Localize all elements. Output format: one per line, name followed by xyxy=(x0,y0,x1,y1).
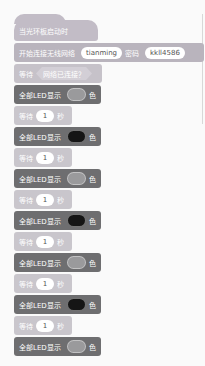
wait-until-block[interactable]: 等待 网络已连接？ xyxy=(14,64,102,83)
seconds-unit: 秒 xyxy=(57,111,64,121)
password-label: 密码 xyxy=(125,48,139,58)
all-led-color-block[interactable]: 全部LED显示色 xyxy=(14,211,101,230)
wifi-label: 开始连接无线网络 xyxy=(19,48,75,58)
seconds-input[interactable]: 1 xyxy=(36,110,54,122)
color-suffix: 色 xyxy=(89,132,96,142)
color-picker[interactable] xyxy=(67,256,86,269)
seconds-input[interactable]: 1 xyxy=(36,152,54,164)
seconds-unit: 秒 xyxy=(57,153,64,163)
network-connected-condition[interactable]: 网络已连接？ xyxy=(36,67,92,80)
led-label: 全部LED显示 xyxy=(19,300,61,310)
color-picker[interactable] xyxy=(67,88,86,101)
wait-label: 等待 xyxy=(19,153,33,163)
color-picker[interactable] xyxy=(67,172,86,185)
all-led-color-block[interactable]: 全部LED显示色 xyxy=(14,127,101,146)
wait-label: 等待 xyxy=(19,237,33,247)
wait-until-label: 等待 xyxy=(19,69,33,79)
color-picker[interactable] xyxy=(67,298,86,311)
wait-label: 等待 xyxy=(19,279,33,289)
color-suffix: 色 xyxy=(89,216,96,226)
when-halocode-starts-block[interactable]: 当光环板启动时 xyxy=(14,20,98,41)
seconds-unit: 秒 xyxy=(57,195,64,205)
hat-label: 当光环板启动时 xyxy=(19,26,68,36)
all-led-color-block[interactable]: 全部LED显示色 xyxy=(14,337,101,356)
wait-seconds-block[interactable]: 等待1秒 xyxy=(14,148,72,167)
seconds-unit: 秒 xyxy=(57,279,64,289)
wait-seconds-block[interactable]: 等待1秒 xyxy=(14,190,72,209)
seconds-input[interactable]: 1 xyxy=(36,194,54,206)
wait-seconds-block[interactable]: 等待1秒 xyxy=(14,106,72,125)
wait-seconds-block[interactable]: 等待1秒 xyxy=(14,274,72,293)
color-picker[interactable] xyxy=(67,130,86,143)
color-suffix: 色 xyxy=(89,300,96,310)
all-led-color-block[interactable]: 全部LED显示色 xyxy=(14,253,101,272)
color-suffix: 色 xyxy=(89,258,96,268)
all-led-color-block[interactable]: 全部LED显示色 xyxy=(14,169,101,188)
seconds-unit: 秒 xyxy=(57,321,64,331)
seconds-input[interactable]: 1 xyxy=(36,278,54,290)
wait-label: 等待 xyxy=(19,321,33,331)
color-picker[interactable] xyxy=(67,340,86,353)
color-suffix: 色 xyxy=(89,342,96,352)
led-label: 全部LED显示 xyxy=(19,132,61,142)
color-suffix: 色 xyxy=(89,174,96,184)
ssid-input[interactable]: tianming xyxy=(81,47,122,59)
seconds-unit: 秒 xyxy=(57,237,64,247)
color-suffix: 色 xyxy=(89,90,96,100)
led-label: 全部LED显示 xyxy=(19,90,61,100)
all-led-color-block[interactable]: 全部LED显示色 xyxy=(14,85,101,104)
connect-wifi-block[interactable]: 开始连接无线网络 tianming 密码 kkll4586 xyxy=(14,43,204,62)
led-label: 全部LED显示 xyxy=(19,216,61,226)
all-led-color-block[interactable]: 全部LED显示色 xyxy=(14,295,101,314)
wait-label: 等待 xyxy=(19,195,33,205)
seconds-input[interactable]: 1 xyxy=(36,236,54,248)
wait-seconds-block[interactable]: 等待1秒 xyxy=(14,232,72,251)
password-input[interactable]: kkll4586 xyxy=(145,47,185,59)
led-label: 全部LED显示 xyxy=(19,174,61,184)
code-block-stack[interactable]: 当光环板启动时 开始连接无线网络 tianming 密码 kkll4586 等待… xyxy=(14,14,204,358)
color-picker[interactable] xyxy=(67,214,86,227)
led-label: 全部LED显示 xyxy=(19,342,61,352)
led-label: 全部LED显示 xyxy=(19,258,61,268)
seconds-input[interactable]: 1 xyxy=(36,320,54,332)
wait-seconds-block[interactable]: 等待1秒 xyxy=(14,316,72,335)
wait-label: 等待 xyxy=(19,111,33,121)
